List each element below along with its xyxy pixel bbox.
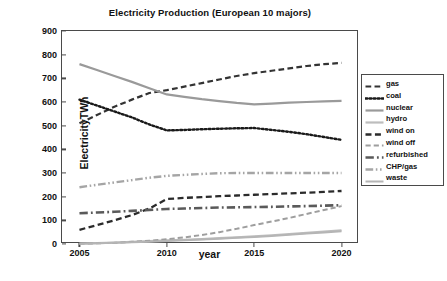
legend-item-wind-on[interactable]: wind on (365, 125, 441, 137)
series-line-gas (79, 63, 341, 123)
legend-swatch-icon (365, 173, 384, 184)
legend-swatch-icon (365, 102, 384, 113)
legend-swatch-icon (365, 161, 384, 172)
legend-label: wind on (386, 127, 415, 135)
y-tick-label: 500 (42, 121, 62, 131)
legend-item-wind-off[interactable]: wind off (365, 137, 441, 149)
chart-title: Electricity Production (European 10 majo… (60, 7, 360, 18)
legend-label: wind off (386, 139, 415, 147)
series-line-coal (79, 100, 341, 140)
series-line-refurbished (79, 205, 341, 213)
series-lines (62, 31, 359, 244)
legend-label: coal (386, 92, 401, 100)
legend-swatch-icon (365, 137, 384, 148)
y-tick-label: 800 (42, 50, 62, 60)
legend-swatch-icon (365, 126, 384, 137)
x-axis-label: year (61, 248, 358, 260)
legend-swatch-icon (365, 90, 384, 101)
y-tick-label: 600 (42, 97, 62, 107)
legend-item-nuclear[interactable]: nuclear (365, 102, 441, 114)
y-tick-label: 100 (42, 215, 62, 225)
legend-item-hydro[interactable]: hydro (365, 113, 441, 125)
legend-item-waste[interactable]: waste (365, 172, 441, 184)
legend-item-coal[interactable]: coal (365, 90, 441, 102)
legend-swatch-icon (365, 114, 384, 125)
series-line-nuclear (79, 64, 341, 104)
legend-label: gas (386, 80, 399, 88)
legend-item-CHP-gas[interactable]: CHP/gas (365, 161, 441, 173)
legend-label: hydro (386, 115, 407, 123)
legend-swatch-icon (365, 149, 384, 160)
y-tick-label: 200 (42, 192, 62, 202)
legend-label: waste (386, 174, 407, 182)
plot-area: ElectricityTWh 0100200300400500600700800… (61, 30, 358, 243)
y-tick-label: 400 (42, 144, 62, 154)
legend-label: refurbished (386, 151, 428, 159)
legend-item-gas[interactable]: gas (365, 78, 441, 90)
y-tick-label: 900 (42, 26, 62, 36)
y-tick-label: 700 (42, 73, 62, 83)
series-line-CHP-gas (79, 173, 341, 187)
legend-swatch-icon (365, 78, 384, 89)
legend-label: nuclear (386, 104, 413, 112)
series-line-hydro (79, 230, 341, 243)
legend-item-refurbished[interactable]: refurbished (365, 149, 441, 161)
chart-legend: gascoalnuclearhydrowind onwind offrefurb… (361, 74, 444, 186)
y-tick-label: 300 (42, 168, 62, 178)
chart-figure: Electricity Production (European 10 majo… (0, 0, 447, 281)
legend-label: CHP/gas (386, 163, 417, 171)
